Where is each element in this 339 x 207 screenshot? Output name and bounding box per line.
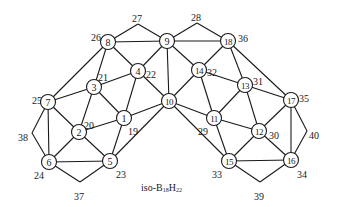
boron-atom-11: 11 bbox=[207, 111, 222, 126]
svg-text:11: 11 bbox=[210, 114, 218, 124]
boron-hydride-structure-diagram: 2627283621223231253520192930384024233334… bbox=[0, 0, 339, 207]
svg-text:16: 16 bbox=[287, 156, 296, 166]
bond-6-5 bbox=[49, 161, 110, 162]
boron-atom-7: 7 bbox=[41, 95, 56, 110]
boron-atom-14: 14 bbox=[192, 63, 207, 78]
boron-atom-10: 10 bbox=[162, 94, 177, 109]
bond-15-16 bbox=[229, 160, 291, 161]
bond-9-10 bbox=[167, 41, 169, 101]
vertex-label-24: 24 bbox=[34, 170, 44, 181]
vertex-label-35: 35 bbox=[299, 93, 309, 104]
vertex-label-32: 32 bbox=[207, 67, 217, 78]
boron-atom-8: 8 bbox=[101, 35, 116, 50]
boron-atom-13: 13 bbox=[238, 78, 253, 93]
boron-atom-3: 3 bbox=[87, 80, 102, 95]
boron-atoms-group: 123456789101112131415161718 bbox=[41, 34, 299, 170]
caption-hydrogen-count: 22 bbox=[176, 187, 182, 193]
diagram-caption: iso-B18H22 bbox=[141, 182, 182, 193]
vertex-label-30: 30 bbox=[269, 130, 279, 141]
vertex-label-19: 19 bbox=[128, 126, 138, 137]
caption-prefix: iso-B bbox=[141, 182, 163, 193]
vertex-label-23: 23 bbox=[116, 169, 126, 180]
vertex-label-29: 29 bbox=[198, 126, 208, 137]
vertex-label-22: 22 bbox=[146, 69, 156, 80]
svg-text:8: 8 bbox=[106, 37, 111, 48]
svg-text:3: 3 bbox=[92, 82, 97, 93]
boron-atom-12: 12 bbox=[252, 124, 267, 139]
vertex-label-26: 26 bbox=[91, 32, 101, 43]
bond-8-9 bbox=[108, 41, 167, 42]
vertex-label-28: 28 bbox=[191, 12, 201, 23]
boron-atom-16: 16 bbox=[284, 153, 299, 168]
boron-atom-1: 1 bbox=[117, 111, 132, 126]
vertex-label-33: 33 bbox=[212, 169, 222, 180]
vertex-label-27: 27 bbox=[132, 13, 142, 24]
boron-atom-15: 15 bbox=[222, 154, 237, 169]
vertex-label-34: 34 bbox=[297, 169, 307, 180]
vertex-label-31: 31 bbox=[253, 76, 263, 87]
svg-text:9: 9 bbox=[165, 36, 170, 47]
vertex-label-40: 40 bbox=[309, 130, 319, 141]
vertex-label-36: 36 bbox=[238, 33, 248, 44]
bond-7-6 bbox=[48, 102, 49, 162]
svg-text:7: 7 bbox=[46, 97, 51, 108]
svg-text:6: 6 bbox=[47, 157, 52, 168]
svg-text:2: 2 bbox=[77, 127, 82, 138]
svg-text:17: 17 bbox=[287, 96, 296, 106]
svg-text:4: 4 bbox=[136, 66, 141, 77]
vertex-label-38: 38 bbox=[18, 132, 28, 143]
boron-atom-4: 4 bbox=[131, 64, 146, 79]
vertex-label-39: 39 bbox=[254, 191, 264, 202]
boron-atom-17: 17 bbox=[284, 93, 299, 108]
svg-text:14: 14 bbox=[195, 66, 204, 76]
bond-18-17 bbox=[228, 41, 291, 100]
svg-text:15: 15 bbox=[225, 157, 234, 167]
boron-atom-6: 6 bbox=[42, 155, 57, 170]
svg-text:13: 13 bbox=[241, 81, 250, 91]
boron-atom-9: 9 bbox=[160, 34, 175, 49]
caption-hydrogen: H bbox=[169, 182, 176, 193]
svg-text:5: 5 bbox=[108, 156, 113, 167]
boron-atom-18: 18 bbox=[221, 34, 236, 49]
svg-text:18: 18 bbox=[224, 37, 233, 47]
bond-10-5 bbox=[110, 101, 169, 161]
boron-atom-5: 5 bbox=[103, 154, 118, 169]
boron-atom-2: 2 bbox=[72, 125, 87, 140]
svg-text:12: 12 bbox=[255, 127, 263, 137]
svg-text:1: 1 bbox=[122, 113, 127, 124]
svg-text:10: 10 bbox=[165, 97, 174, 107]
vertex-label-37: 37 bbox=[74, 191, 84, 202]
